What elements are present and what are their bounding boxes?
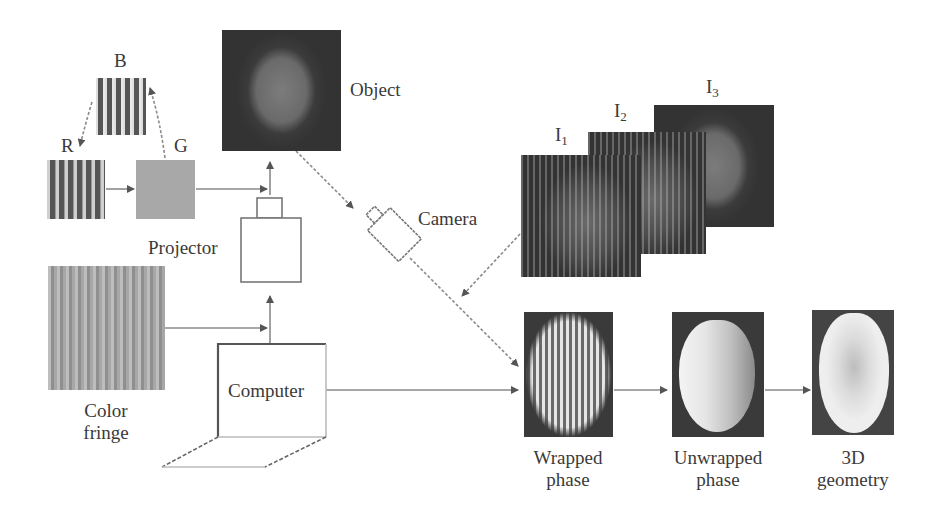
projector-icon (241, 198, 301, 282)
arrow-camera-to-wrapped (410, 258, 518, 366)
unwrapped-phase-image (672, 312, 764, 437)
3d-geometry-label-line1: 3D (803, 447, 903, 469)
r-channel-pattern (47, 160, 105, 219)
projector-label: Projector (148, 237, 218, 259)
wrapped-phase-label-line1: Wrapped (518, 447, 618, 469)
wrapped-phase-label-line2: phase (518, 469, 618, 491)
unwrapped-phase-label-line2: phase (660, 469, 776, 491)
b-channel-pattern (96, 78, 146, 135)
wrapped-phase-label: Wrapped phase (518, 447, 618, 491)
i1-label: I1 (555, 124, 568, 152)
unwrapped-phase-label: Unwrapped phase (660, 447, 776, 491)
3d-geometry-image (812, 310, 894, 435)
arrow-g-to-b (150, 88, 165, 158)
3d-geometry-label-line2: geometry (803, 469, 903, 491)
arrow-b-to-r (80, 102, 92, 146)
color-fringe-label-line2: fringe (60, 422, 152, 444)
computer-label: Computer (228, 380, 304, 402)
g-label: G (174, 135, 188, 157)
i3-label: I3 (706, 76, 719, 104)
r-label: R (61, 135, 74, 157)
computer-icon (162, 344, 326, 467)
object-face-image (222, 30, 341, 151)
arrow-object-to-camera (296, 151, 353, 208)
arrow-images-to-line (462, 234, 520, 296)
3d-geometry-label: 3D geometry (803, 447, 903, 491)
camera-icon (359, 199, 421, 261)
i2-label: I2 (614, 100, 627, 128)
object-label: Object (350, 79, 401, 101)
color-fringe-label: Color fringe (60, 400, 152, 444)
wrapped-phase-image (524, 312, 613, 437)
b-label: B (114, 50, 127, 72)
color-fringe-pattern (48, 266, 165, 390)
captured-image-i1 (521, 155, 641, 277)
camera-label: Camera (418, 208, 477, 230)
color-fringe-label-line1: Color (60, 400, 152, 422)
g-channel-pattern (136, 160, 195, 219)
unwrapped-phase-label-line1: Unwrapped (660, 447, 776, 469)
